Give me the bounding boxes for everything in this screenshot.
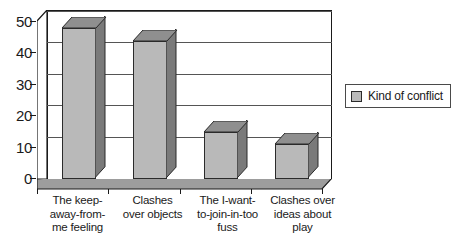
y-axis-tick-label: 50 — [6, 14, 32, 29]
x-axis-labels: The keep-away-from-me feelingClashesover… — [40, 194, 340, 244]
bar-chart: 01020304050 The keep-away-from-me feelin… — [0, 0, 462, 247]
y-axis-tick-label: 30 — [6, 77, 32, 92]
bar-front-face — [62, 28, 96, 179]
y-axis: 01020304050 — [0, 0, 32, 190]
bars-layer — [47, 10, 332, 179]
y-axis-tick-label: 0 — [6, 171, 32, 186]
x-axis-category-label-line: to-join-in-too — [191, 208, 264, 222]
x-axis-category-label-line: Clashes over — [266, 194, 339, 208]
x-axis-category-label-line: Clashes — [116, 194, 189, 208]
legend-swatch-icon — [351, 91, 362, 102]
legend: Kind of conflict — [345, 84, 451, 108]
bar-side-face — [166, 29, 177, 179]
chart-left-wall-3d — [37, 10, 47, 179]
bar-top-face — [133, 30, 178, 42]
bar-front-face — [275, 144, 309, 179]
y-axis-tick-mark — [30, 21, 36, 22]
x-axis-tick-mark — [37, 189, 38, 194]
y-axis-tick-mark — [30, 84, 36, 85]
x-axis-category-label-line: me feeling — [41, 221, 114, 235]
bar-front-face — [133, 41, 167, 179]
y-axis-tick-mark — [30, 147, 36, 148]
x-axis-category-label-line: The keep- — [41, 194, 114, 208]
bar-side-face — [95, 16, 106, 179]
bar — [275, 133, 309, 179]
bar — [133, 30, 167, 179]
bar-top-face — [62, 17, 107, 29]
x-axis-category-label-line: ideas about — [266, 208, 339, 222]
x-axis-category-label: The I-want-to-join-in-toofuss — [190, 194, 265, 244]
x-axis-category-label-line: away-from- — [41, 208, 114, 222]
bar-top-face — [204, 121, 249, 133]
x-axis-category-label-line: fuss — [191, 221, 264, 235]
y-axis-tick-label: 10 — [6, 140, 32, 155]
x-axis-category-label: The keep-away-from-me feeling — [40, 194, 115, 244]
y-axis-tick-mark — [30, 52, 36, 53]
y-axis-tick-label: 40 — [6, 45, 32, 60]
bar-front-face — [204, 132, 238, 179]
x-axis-category-label: Clashes overideas aboutplay — [265, 194, 340, 244]
legend-label: Kind of conflict — [368, 89, 443, 103]
x-axis-category-label-line: over objects — [116, 208, 189, 222]
bar — [62, 17, 96, 179]
y-axis-tick-mark — [30, 115, 36, 116]
bar-top-face — [275, 133, 320, 145]
x-axis-category-label-line: The I-want- — [191, 194, 264, 208]
bar — [204, 121, 238, 179]
x-axis-category-label-line: play — [266, 221, 339, 235]
y-axis-tick-label: 20 — [6, 108, 32, 123]
y-axis-tick-mark — [30, 178, 36, 179]
x-axis-category-label: Clashesover objects — [115, 194, 190, 244]
